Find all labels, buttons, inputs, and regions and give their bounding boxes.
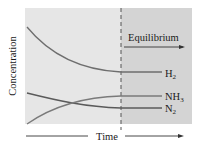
time-arrow-head-icon — [178, 134, 184, 138]
equilibrium-region — [121, 8, 192, 124]
x-axis-label: Time — [96, 131, 118, 142]
equilibrium-label: Equilibrium — [128, 32, 179, 43]
equilibrium-chart: Equilibrium H2 NH3 N2 Concentration Time — [0, 0, 197, 150]
y-axis-label: Concentration — [7, 36, 18, 96]
pre-equilibrium-region — [25, 8, 121, 124]
